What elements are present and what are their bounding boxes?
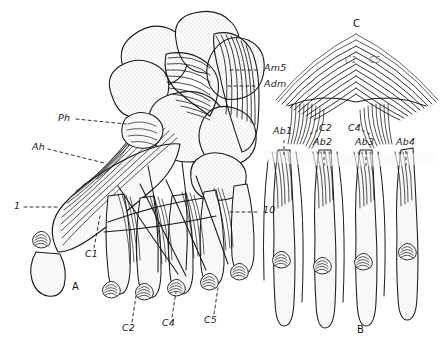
digit-a-4 [200, 190, 224, 286]
heel-knuckle [33, 231, 51, 248]
label-c1-a: C1 [85, 249, 98, 259]
anatomical-figure: Am5 Adm Ph Ah 1 10 C1 C2 C4 C5 Ab1 C2 C4… [0, 0, 444, 353]
muscle-ph-head [122, 112, 163, 148]
digit-a-3 [168, 194, 193, 294]
label-ab1: Ab1 [273, 126, 292, 136]
panel-a-artwork [24, 11, 264, 322]
label-ph: Ph [58, 113, 70, 123]
fan-cords-c [288, 104, 392, 148]
leader-c5 [214, 288, 218, 314]
label-1: 1 [14, 201, 20, 211]
panel-b-shafts [273, 148, 419, 328]
label-am5: Am5 [264, 63, 286, 73]
panel-label-c: C [353, 19, 360, 29]
label-c2-a: C2 [122, 323, 135, 333]
panel-label-b: B [357, 325, 364, 335]
leader-ph [76, 119, 126, 124]
label-ab4: Ab4 [396, 137, 415, 147]
label-c4-c: C4 [348, 123, 361, 133]
label-ab3: Ab3 [355, 137, 374, 147]
figure-artwork [0, 0, 444, 353]
heel-shaft [31, 252, 66, 296]
leader-c2 [132, 296, 136, 322]
label-c2-c: C2 [319, 123, 332, 133]
fan-base-band [288, 98, 426, 106]
digit-a-5 [231, 184, 254, 274]
label-10: 10 [263, 205, 276, 215]
label-c5-a: C5 [204, 315, 217, 325]
label-c5-c: C5 [369, 56, 381, 65]
panel-label-a: A [72, 282, 79, 292]
label-c4-a: C4 [162, 318, 175, 328]
label-ab2: Ab2 [313, 137, 332, 147]
leader-ah [48, 149, 104, 163]
label-ah: Ah [32, 142, 45, 152]
label-adm: Adm [264, 79, 286, 89]
panel-b-artwork [262, 148, 438, 328]
label-c1-c: C1 [345, 56, 357, 65]
